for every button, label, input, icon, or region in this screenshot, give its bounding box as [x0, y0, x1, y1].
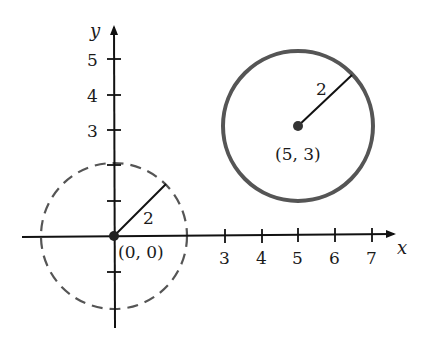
x-axis	[22, 234, 394, 237]
y-axis	[114, 27, 115, 328]
radius-label-5-3: 2	[316, 79, 327, 99]
x-axis-label: x	[397, 237, 407, 258]
x-tick-label-7: 7	[366, 248, 377, 268]
y-tick-label-3: 3	[87, 121, 98, 141]
center-label-5-3: (5, 3)	[275, 144, 321, 164]
center-point-origin	[109, 231, 119, 241]
y-axis-label: y	[89, 20, 101, 41]
x-tick-label-4: 4	[256, 248, 267, 268]
y-tick-label-5: 5	[87, 50, 98, 70]
coordinate-plane: 3 4 5 6 7 5 4 3 y x 2 (0, 0) 2 (5, 3)	[0, 0, 443, 340]
center-label-origin: (0, 0)	[118, 242, 164, 262]
center-point-5-3	[293, 121, 303, 131]
diagram-canvas: 3 4 5 6 7 5 4 3 y x 2 (0, 0) 2 (5, 3)	[0, 0, 443, 340]
x-tick-label-3: 3	[219, 248, 230, 268]
radius-label-origin: 2	[143, 208, 154, 228]
y-tick-label-4: 4	[87, 86, 98, 106]
x-tick-label-5: 5	[292, 248, 303, 268]
x-tick-label-6: 6	[329, 248, 340, 268]
radius-line-origin	[114, 184, 166, 236]
